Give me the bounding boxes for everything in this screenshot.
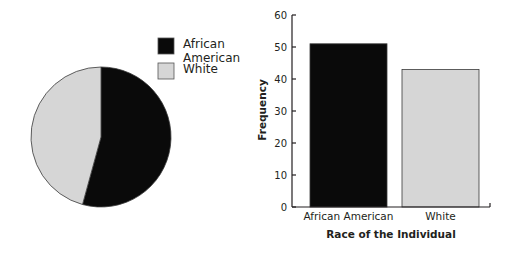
pie-legend: AfricanAmericanWhite [158, 37, 240, 79]
legend-swatch-white [158, 63, 174, 79]
y-tick-label-40: 40 [274, 74, 287, 85]
bar-chart: 0102030405060 African AmericanWhite Freq… [256, 10, 490, 241]
y-tick-label-0: 0 [281, 202, 287, 213]
bars [310, 44, 479, 207]
y-tick-label-30: 30 [274, 106, 287, 117]
bar-white [402, 69, 479, 207]
chart-canvas: AfricanAmericanWhite 0102030405060 Afric… [0, 0, 515, 253]
x-tick-label-african-american: African American [304, 210, 394, 222]
y-axis: 0102030405060 [274, 10, 296, 213]
pie-chart [31, 67, 171, 207]
y-tick-label-60: 60 [274, 10, 287, 21]
y-tick-label-50: 50 [274, 42, 287, 53]
y-tick-label-10: 10 [274, 170, 287, 181]
x-tick-label-white: White [425, 210, 456, 222]
legend-label-african-american: African [183, 37, 225, 51]
x-axis-title: Race of the Individual [326, 228, 456, 240]
bar-african-american [310, 44, 387, 207]
legend-swatch-african-american [158, 38, 174, 54]
y-axis-title: Frequency [256, 79, 268, 141]
y-tick-label-20: 20 [274, 138, 287, 149]
legend-label-white: White [183, 62, 218, 76]
